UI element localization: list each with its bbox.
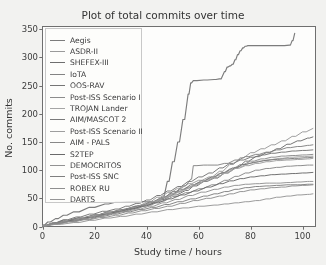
x-tick-label-80: 80 bbox=[245, 232, 256, 241]
legend-label: S2TEP bbox=[70, 150, 94, 159]
legend-label: Post-ISS Scenario I bbox=[70, 93, 141, 102]
y-tick-label-200: 200 bbox=[10, 110, 38, 119]
legend-item-3[interactable]: IoTA bbox=[50, 69, 86, 80]
y-tick-label-0: 0 bbox=[10, 222, 38, 231]
legend-color-swatch bbox=[50, 119, 65, 120]
y-axis-label: No. commits bbox=[4, 98, 14, 158]
legend-item-2[interactable]: SHEFEX-III bbox=[50, 57, 109, 68]
x-tick-label-100: 100 bbox=[294, 232, 310, 241]
legend-label: DEMOCRITOS bbox=[70, 161, 121, 170]
legend-color-swatch bbox=[50, 165, 65, 166]
legend-item-0[interactable]: Aegis bbox=[50, 35, 91, 46]
legend-item-1[interactable]: ASDR-II bbox=[50, 46, 98, 57]
legend-color-swatch bbox=[50, 199, 65, 200]
legend-item-9[interactable]: AIM - PALS bbox=[50, 137, 110, 148]
legend-color-swatch bbox=[50, 74, 65, 75]
legend-label: TROJAN Lander bbox=[70, 104, 128, 113]
y-tick-label-250: 250 bbox=[10, 81, 38, 90]
legend-label: DARTS bbox=[70, 195, 95, 204]
legend-color-swatch bbox=[50, 188, 65, 189]
legend-color-swatch bbox=[50, 154, 65, 155]
legend-item-14[interactable]: DARTS bbox=[50, 194, 95, 205]
legend-label: OOS-RAV bbox=[70, 81, 104, 90]
legend-label: Post-ISS SNC bbox=[70, 172, 119, 181]
legend-item-13[interactable]: ROBEX RU bbox=[50, 183, 110, 194]
legend-item-6[interactable]: TROJAN Lander bbox=[50, 103, 128, 114]
legend-color-swatch bbox=[50, 62, 65, 63]
legend-color-swatch bbox=[50, 176, 65, 177]
legend-label: ASDR-II bbox=[70, 47, 98, 56]
legend-item-7[interactable]: AIM/MASCOT 2 bbox=[50, 114, 126, 125]
y-tick-label-350: 350 bbox=[10, 25, 38, 34]
x-tick-label-40: 40 bbox=[141, 232, 152, 241]
legend-color-swatch bbox=[50, 97, 65, 98]
x-tick-label-60: 60 bbox=[193, 232, 204, 241]
legend-item-8[interactable]: Post-ISS Scenario II bbox=[50, 126, 143, 137]
legend-color-swatch bbox=[50, 51, 65, 52]
x-tick-label-0: 0 bbox=[40, 232, 45, 241]
chart-legend: AegisASDR-IISHEFEX-IIIIoTAOOS-RAVPost-IS… bbox=[45, 28, 142, 203]
legend-item-4[interactable]: OOS-RAV bbox=[50, 80, 104, 91]
legend-label: IoTA bbox=[70, 70, 86, 79]
legend-color-swatch bbox=[50, 40, 65, 41]
legend-color-swatch bbox=[50, 108, 65, 109]
legend-label: Post-ISS Scenario II bbox=[70, 127, 143, 136]
chart-figure: Plot of total commits over time Study ti… bbox=[0, 0, 326, 265]
x-tick-label-20: 20 bbox=[89, 232, 100, 241]
y-tick-label-150: 150 bbox=[10, 138, 38, 147]
chart-title: Plot of total commits over time bbox=[82, 10, 245, 21]
legend-item-11[interactable]: DEMOCRITOS bbox=[50, 160, 121, 171]
y-tick-label-300: 300 bbox=[10, 53, 38, 62]
legend-label: ROBEX RU bbox=[70, 184, 110, 193]
legend-item-10[interactable]: S2TEP bbox=[50, 149, 94, 160]
legend-label: Aegis bbox=[70, 36, 91, 45]
legend-label: AIM/MASCOT 2 bbox=[70, 115, 126, 124]
legend-color-swatch bbox=[50, 85, 65, 86]
y-tick-label-50: 50 bbox=[10, 194, 38, 203]
y-tick-label-100: 100 bbox=[10, 166, 38, 175]
legend-color-swatch bbox=[50, 142, 65, 143]
legend-label: SHEFEX-III bbox=[70, 58, 109, 67]
legend-item-12[interactable]: Post-ISS SNC bbox=[50, 171, 119, 182]
legend-color-swatch bbox=[50, 131, 65, 132]
x-axis-label: Study time / hours bbox=[134, 247, 222, 257]
legend-item-5[interactable]: Post-ISS Scenario I bbox=[50, 92, 141, 103]
legend-label: AIM - PALS bbox=[70, 138, 110, 147]
